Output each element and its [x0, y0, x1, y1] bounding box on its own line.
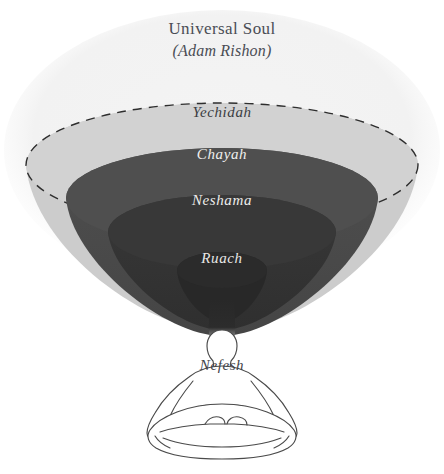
- soul-levels-diagram: Universal Soul (Adam Rishon) Yechidah Ch…: [0, 0, 444, 474]
- ruach-rim: [177, 252, 267, 288]
- meditating-person-icon: [147, 330, 297, 459]
- soul-funnel-graphic: [0, 0, 444, 474]
- figure-head: [207, 330, 237, 368]
